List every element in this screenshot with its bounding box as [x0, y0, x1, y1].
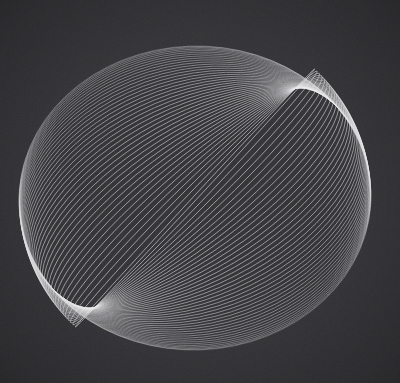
ellipse-path — [0, 30, 393, 367]
ellipse-path — [20, 51, 369, 344]
artwork-canvas: Rotating Ellipse Family — [0, 0, 400, 383]
ellipse-path — [0, 31, 399, 364]
ellipse-path — [0, 41, 389, 355]
ellipse-path — [2, 32, 388, 365]
ellipse-path — [0, 31, 399, 366]
ellipse-path — [74, 68, 316, 329]
ellipse-path — [0, 33, 399, 363]
ellipse-path — [28, 55, 362, 342]
ellipse-group — [0, 29, 399, 367]
ellipse-path — [46, 61, 344, 336]
ellipse-path — [37, 58, 354, 339]
ellipse-path — [0, 32, 399, 364]
ellipse-path — [32, 56, 357, 340]
ellipse-path — [9, 36, 382, 361]
ellipse-path — [0, 29, 398, 366]
ellipse-path — [0, 29, 395, 366]
ellipse-family-plot — [0, 0, 400, 383]
ellipse-path — [4, 33, 386, 364]
